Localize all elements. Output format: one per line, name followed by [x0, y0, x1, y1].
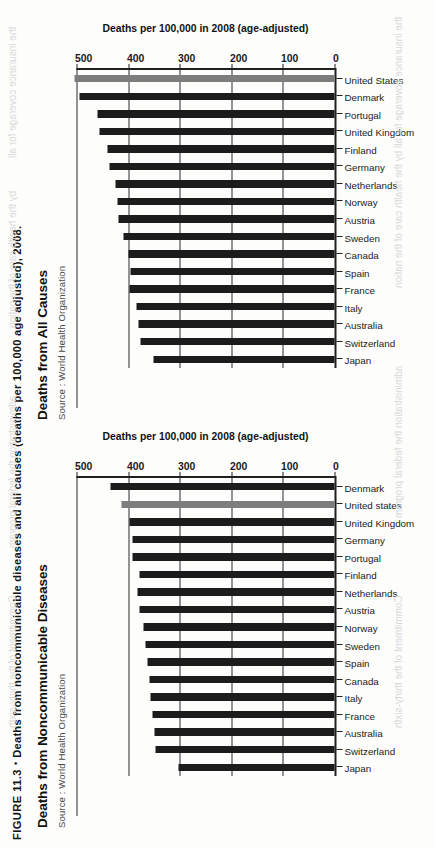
bar-portugal: [132, 553, 334, 560]
x-tick-1: [336, 341, 342, 342]
bar-austria: [139, 606, 334, 613]
bar-germany: [132, 536, 334, 543]
x-tick-4: [336, 696, 342, 697]
x-tick-15: [336, 503, 342, 504]
x-category-label-germany: Germany: [344, 162, 384, 173]
x-category-label-switzerland: Switzerland: [344, 746, 395, 757]
bar-finland: [139, 571, 334, 578]
x-category-label-denmark: Denmark: [344, 483, 384, 494]
chart-source-noncommunicable: Source : World Health Organization: [55, 674, 66, 828]
x-tick-5: [336, 679, 342, 680]
y-tick-label-0: 0: [333, 461, 339, 472]
x-tick-13: [336, 538, 342, 539]
bar-portugal: [97, 110, 334, 117]
x-tick-14: [336, 521, 342, 522]
x-category-label-spain: Spain: [344, 268, 369, 279]
x-tick-0: [336, 358, 342, 359]
x-category-label-austria: Austria: [344, 215, 375, 226]
x-tick-15: [336, 95, 342, 96]
x-tick-10: [336, 183, 342, 184]
x-category-label-austria: Austria: [344, 605, 375, 616]
x-tick-7: [336, 236, 342, 237]
bar-australia: [154, 729, 334, 736]
bar-netherlands: [115, 180, 334, 187]
x-category-label-spain: Spain: [344, 658, 369, 669]
x-category-label-norway: Norway: [344, 197, 377, 208]
bar-canada: [128, 250, 334, 257]
y-tick-label-100: 100: [281, 53, 298, 64]
gridline-500: [76, 70, 77, 408]
x-tick-3: [336, 714, 342, 715]
x-category-label-portugal: Portugal: [344, 110, 381, 121]
x-tick-11: [336, 573, 342, 574]
x-tick-8: [336, 626, 342, 627]
x-category-label-portugal: Portugal: [344, 553, 381, 564]
x-category-label-italy: Italy: [344, 303, 362, 314]
x-tick-9: [336, 200, 342, 201]
x-category-label-norway: Norway: [344, 623, 377, 634]
x-category-label-japan: Japan: [344, 355, 371, 366]
x-category-label-france: France: [344, 285, 375, 296]
x-category-label-italy: Italy: [344, 693, 362, 704]
y-tick-label-400: 400: [126, 53, 143, 64]
bar-spain: [130, 268, 334, 275]
x-tick-3: [336, 306, 342, 307]
x-tick-6: [336, 661, 342, 662]
bar-sweden: [123, 233, 334, 240]
bar-sweden: [145, 641, 334, 648]
x-category-label-canada: Canada: [344, 676, 378, 687]
bar-france: [152, 711, 334, 718]
x-tick-1: [336, 749, 342, 750]
y-axis-label-noncommunicable: Deaths per 100,000 in 2008 (age-adjusted…: [102, 431, 308, 442]
bar-austria: [118, 215, 334, 222]
x-category-label-canada: Canada: [344, 250, 378, 261]
x-category-label-sweden: Sweden: [344, 641, 379, 652]
bar-united-states: [121, 501, 334, 508]
chart-panel-noncommunicable: Deaths from Noncommunicable Diseases Sou…: [0, 423, 435, 828]
bar-germany: [109, 163, 334, 170]
chart-source-all-causes: Source : World Health Organization: [55, 266, 66, 420]
y-tick-label-100: 100: [281, 461, 298, 472]
x-category-label-sweden: Sweden: [344, 233, 379, 244]
x-tick-12: [336, 148, 342, 149]
bar-italy: [150, 693, 334, 700]
bar-netherlands: [137, 588, 334, 595]
x-tick-11: [336, 165, 342, 166]
x-category-label-germany: Germany: [344, 535, 384, 546]
x-tick-16: [336, 78, 342, 79]
x-category-label-denmark: Denmark: [344, 92, 384, 103]
chart-panel-all-causes: Deaths from All Causes Source : World He…: [0, 15, 435, 420]
y-tick-label-300: 300: [178, 53, 195, 64]
x-tick-9: [336, 608, 342, 609]
x-tick-5: [336, 271, 342, 272]
bar-united-kingdom: [99, 128, 334, 135]
y-tick-label-300: 300: [178, 461, 195, 472]
x-category-label-netherlands: Netherlands: [344, 180, 397, 191]
x-tick-8: [336, 218, 342, 219]
x-tick-10: [336, 591, 342, 592]
x-tick-0: [336, 766, 342, 767]
x-category-label-finland: Finland: [344, 145, 376, 156]
x-category-label-united-kingdom: United Kingdom: [344, 518, 414, 529]
x-tick-13: [336, 130, 342, 131]
bar-norway: [143, 623, 334, 630]
chart-title-noncommunicable: Deaths from Noncommunicable Diseases: [34, 564, 49, 828]
bar-japan: [178, 764, 334, 771]
x-category-label-finland: Finland: [344, 570, 376, 581]
gridline-500: [76, 478, 77, 816]
y-tick-label-0: 0: [333, 53, 339, 64]
x-tick-4: [336, 288, 342, 289]
y-axis-line: [76, 476, 334, 478]
x-category-label-japan: Japan: [344, 763, 371, 774]
y-tick-label-500: 500: [75, 53, 92, 64]
bar-switzerland: [140, 338, 334, 345]
bar-france: [129, 285, 334, 292]
x-category-label-france: France: [344, 711, 375, 722]
x-tick-14: [336, 113, 342, 114]
bar-denmark: [79, 93, 334, 100]
bar-switzerland: [155, 746, 334, 753]
bar-norway: [117, 198, 334, 205]
y-tick-label-500: 500: [75, 461, 92, 472]
bar-denmark: [110, 483, 334, 490]
y-tick-label-200: 200: [229, 53, 246, 64]
